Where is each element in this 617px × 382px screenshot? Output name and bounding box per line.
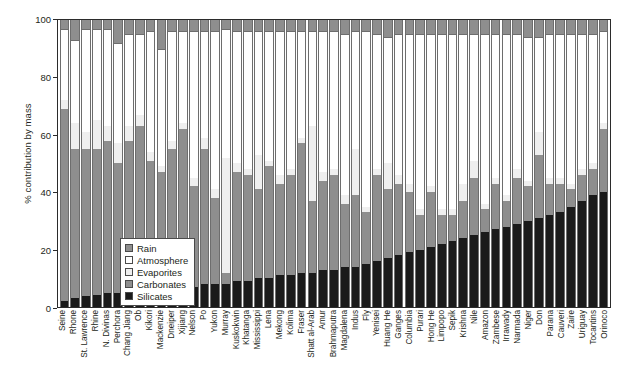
bar-column[interactable] (383, 20, 393, 307)
bar-segment-silicates (384, 258, 392, 307)
bar-column[interactable] (577, 20, 587, 307)
legend-label: Atmosphere (137, 255, 188, 266)
bar-segment-evaporites (406, 184, 414, 193)
bar-segment-rain (158, 20, 166, 49)
bar-column[interactable] (210, 20, 220, 307)
bar-column[interactable] (469, 20, 479, 307)
bar-segment-silicates (287, 275, 295, 307)
bar-segment-atmosphere (93, 29, 101, 121)
bar-column[interactable] (103, 20, 113, 307)
bar-segment-atmosphere (125, 34, 133, 126)
bar-segment-silicates (352, 267, 360, 307)
x-tick-label: Tocantins (590, 310, 598, 345)
bar-column[interactable] (275, 20, 285, 307)
bar-segment-silicates (61, 301, 69, 307)
bar-column[interactable] (555, 20, 565, 307)
bar-column[interactable] (458, 20, 468, 307)
bar-column[interactable] (512, 20, 522, 307)
bar-segment-rain (276, 20, 284, 31)
x-tick-label: Mekong (276, 310, 284, 339)
legend-item[interactable]: Atmosphere (125, 254, 188, 266)
bar-segment-atmosphere (567, 34, 575, 183)
bar-column[interactable] (308, 20, 318, 307)
bar-segment-rain (93, 20, 101, 29)
bar-segment-carbonates (82, 149, 90, 295)
x-tick-cell: Nile (470, 310, 480, 380)
bar-segment-carbonates (600, 129, 608, 192)
bar-column[interactable] (426, 20, 436, 307)
bar-column[interactable] (200, 20, 210, 307)
bar-column[interactable] (491, 20, 501, 307)
bar-segment-rain (71, 20, 79, 40)
bar-column[interactable] (372, 20, 382, 307)
bar-segment-rain (233, 20, 241, 31)
bar-column[interactable] (297, 20, 307, 307)
bar-column[interactable] (480, 20, 490, 307)
bar-column[interactable] (340, 20, 350, 307)
bar-segment-atmosphere (513, 34, 521, 169)
bar-column[interactable] (405, 20, 415, 307)
bar-column[interactable] (70, 20, 80, 307)
bar-segment-atmosphere (600, 31, 608, 123)
bar-segment-rain (362, 20, 370, 31)
bar-column[interactable] (286, 20, 296, 307)
x-tick-cell: Hong He (427, 310, 437, 380)
x-tick-label: Sepik (449, 310, 457, 330)
x-tick-cell: Zambese (492, 310, 502, 380)
bar-segment-rain (179, 20, 187, 31)
bar-segment-evaporites (82, 132, 90, 149)
bar-column[interactable] (588, 20, 598, 307)
bar-column[interactable] (329, 20, 339, 307)
bar-segment-carbonates (319, 181, 327, 270)
bar-segment-rain (222, 20, 230, 29)
y-tick-label: 60 (23, 129, 51, 140)
bar-column[interactable] (221, 20, 231, 307)
bar-column[interactable] (60, 20, 70, 307)
legend-item[interactable]: Evaporites (125, 266, 188, 278)
bar-segment-evaporites (459, 184, 467, 201)
bar-segment-atmosphere (158, 49, 166, 167)
x-tick-cell: Yenisei (373, 310, 383, 380)
bar-column[interactable] (448, 20, 458, 307)
bar-column[interactable] (351, 20, 361, 307)
bar-column[interactable] (599, 20, 609, 307)
bar-column[interactable] (566, 20, 576, 307)
bar-segment-evaporites (114, 143, 122, 163)
bar-column[interactable] (264, 20, 274, 307)
bar-column[interactable] (81, 20, 91, 307)
bar-column[interactable] (243, 20, 253, 307)
bar-segment-silicates (449, 241, 457, 307)
bar-segment-silicates (276, 275, 284, 307)
bar-segment-atmosphere (352, 31, 360, 149)
bar-segment-carbonates (244, 175, 252, 281)
bar-column[interactable] (502, 20, 512, 307)
bar-segment-rain (352, 20, 360, 31)
bar-column[interactable] (361, 20, 371, 307)
bar-segment-carbonates (535, 155, 543, 218)
x-tick-label: Kuskokwin (233, 310, 241, 349)
bar-column[interactable] (437, 20, 447, 307)
bar-segment-atmosphere (233, 31, 241, 163)
x-tick-cell: Kolima (286, 310, 296, 380)
bar-column[interactable] (394, 20, 404, 307)
legend-item[interactable]: Rain (125, 242, 188, 254)
bar-column[interactable] (318, 20, 328, 307)
legend-item[interactable]: Carbonates (125, 278, 188, 290)
bar-column[interactable] (545, 20, 555, 307)
bar-column[interactable] (415, 20, 425, 307)
bar-column[interactable] (254, 20, 264, 307)
bar-column[interactable] (232, 20, 242, 307)
x-tick-label: Zambese (493, 310, 501, 344)
x-tick-cell: Krishna (459, 310, 469, 380)
bar-segment-rain (190, 20, 198, 31)
bar-column[interactable] (523, 20, 533, 307)
bar-segment-rain (600, 20, 608, 31)
legend-item[interactable]: Silicates (125, 290, 188, 302)
bar-segment-rain (535, 20, 543, 37)
bar-segment-rain (255, 20, 263, 31)
bar-segment-silicates (556, 212, 564, 307)
legend-swatch-icon (125, 256, 133, 264)
bar-segment-evaporites (125, 126, 133, 140)
bar-column[interactable] (92, 20, 102, 307)
bar-column[interactable] (534, 20, 544, 307)
